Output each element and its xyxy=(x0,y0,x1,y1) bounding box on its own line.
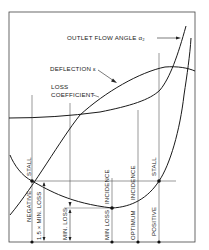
label-1-5-min-loss: 1.5 × MIN. LOSS xyxy=(36,191,42,240)
label-min-loss-incidence-1: MIN LOSS xyxy=(104,210,110,240)
axis-dot-positive xyxy=(157,240,160,243)
label-loss-coefficient-1: LOSS xyxy=(51,84,68,90)
label-negative: NEGATIVE xyxy=(26,191,32,223)
label-stall-left: STALL xyxy=(26,157,32,176)
label-optimum-1: OPTIMUM xyxy=(130,210,136,240)
label-min-loss: MIN. LOSS xyxy=(62,208,68,240)
label-min-loss-incidence-2: INCIDENCE xyxy=(104,169,110,204)
negative-stall-point xyxy=(30,179,34,183)
loss-coefficient-curve xyxy=(10,38,191,208)
deflection-leader xyxy=(98,70,114,81)
positive-stall-point xyxy=(157,179,161,183)
label-stall-right: STALL xyxy=(151,157,157,176)
label-optimum-2: INCIDENCE xyxy=(130,165,136,200)
axis-dot-optimum xyxy=(136,240,139,243)
label-loss-coefficient-2: COEFFICIENT xyxy=(51,92,94,98)
min-loss-point xyxy=(110,206,114,210)
axis-dot-min-loss xyxy=(110,240,113,243)
label-deflection: DEFLECTION ε xyxy=(50,66,96,72)
axis-dot-negative xyxy=(30,240,33,243)
label-positive: POSITIVE xyxy=(151,207,157,236)
label-outlet-flow-angle: OUTLET FLOW ANGLE α₂ xyxy=(67,35,145,41)
